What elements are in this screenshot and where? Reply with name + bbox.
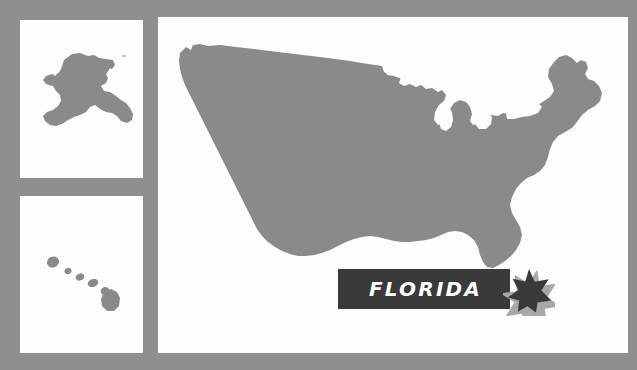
hawaii-islands-shape [20, 196, 143, 353]
alaska-shape [20, 20, 143, 178]
alaska-inset-panel [20, 20, 143, 178]
star-marker-shape [503, 264, 555, 316]
state-name-label: FLORIDA [338, 269, 510, 309]
hawaii-inset-panel [20, 196, 143, 353]
state-name-banner: FLORIDA [338, 269, 510, 309]
map-graphic: FLORIDA [0, 0, 637, 370]
six-point-star-icon [503, 264, 555, 316]
